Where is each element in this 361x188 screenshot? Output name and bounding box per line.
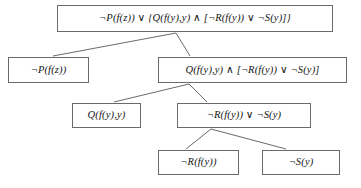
tree-node-not-s-label: ¬S(y) xyxy=(289,157,314,168)
edge-root-to-left1 xyxy=(53,33,176,56)
tree-node-not-r-or-not-s-label: ¬R(f(y)) ∨ ¬S(y) xyxy=(207,110,281,121)
tree-node-q-and-bracket-label: Q(f(y),y) ∧ [¬R(f(y)) ∨ ¬S(y)] xyxy=(185,65,319,76)
tree-node-not-s: ¬S(y) xyxy=(262,150,340,175)
tree-node-root: ¬P(f(z)) ∨ {Q(f(y),y) ∧ [¬R(f(y)) ∨ ¬S(y… xyxy=(57,5,333,32)
edge-right1-to-q xyxy=(114,84,189,102)
edge-rs-to-notr xyxy=(186,129,211,149)
tree-node-q: Q(f(y),y) xyxy=(72,103,141,128)
semantic-tree-diagram: ¬P(f(z)) ∨ {Q(f(y),y) ∧ [¬R(f(y)) ∨ ¬S(y… xyxy=(0,0,361,188)
tree-node-q-label: Q(f(y),y) xyxy=(88,110,126,121)
edge-rs-to-nots xyxy=(211,129,286,149)
tree-node-not-r: ¬R(f(y)) xyxy=(158,150,239,175)
tree-node-q-and-bracket: Q(f(y),y) ∧ [¬R(f(y)) ∨ ¬S(y)] xyxy=(158,57,347,83)
tree-node-not-r-or-not-s: ¬R(f(y)) ∨ ¬S(y) xyxy=(177,103,311,128)
edge-root-to-right1 xyxy=(176,33,190,56)
tree-node-not-r-label: ¬R(f(y)) xyxy=(180,157,216,168)
tree-node-not-p: ¬P(f(z)) xyxy=(8,57,89,83)
tree-node-root-label: ¬P(f(z)) ∨ {Q(f(y),y) ∧ [¬R(f(y)) ∨ ¬S(y… xyxy=(99,13,291,24)
edge-right1-to-rs xyxy=(189,84,207,102)
tree-node-not-p-label: ¬P(f(z)) xyxy=(31,65,67,76)
